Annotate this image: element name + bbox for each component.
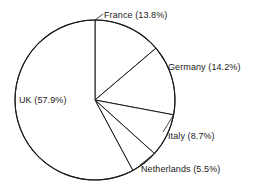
leader-line-france bbox=[95, 14, 103, 20]
pie-label-netherlands: Netherlands (5.5%) bbox=[141, 164, 220, 174]
pie-label-germany: Germany (14.2%) bbox=[168, 62, 241, 72]
pie-label-uk: UK (57.9%) bbox=[19, 95, 67, 105]
pie-label-france: France (13.8%) bbox=[104, 10, 167, 20]
pie-label-italy: Italy (8.7%) bbox=[168, 131, 215, 141]
pie-chart-svg: France (13.8%) Germany (14.2%) Italy (8.… bbox=[0, 0, 260, 192]
pie-chart: France (13.8%) Germany (14.2%) Italy (8.… bbox=[0, 0, 260, 192]
